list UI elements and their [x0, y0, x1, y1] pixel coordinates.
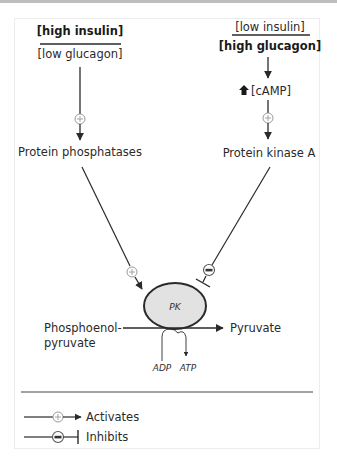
high-insulin-label: [high insulin]: [37, 24, 123, 38]
left-pathway: [high insulin] [low glucagon] Protein ph…: [18, 24, 142, 159]
inhibit-bar-icon: [196, 279, 210, 287]
atp-label: ATP: [179, 363, 197, 373]
reaction: Phosphoenol- pyruvate Pyruvate ADP ATP: [44, 321, 281, 373]
right-pathway: [low insulin] [high glucagon] [cAMP] Pro…: [219, 20, 321, 160]
protein-phosphatases-label: Protein phosphatases: [18, 145, 142, 159]
minus-icon: [204, 265, 215, 276]
legend-inhibits: Inhibits: [24, 430, 128, 444]
low-insulin-label: [low insulin]: [235, 20, 305, 34]
adp-in-curve: [162, 329, 178, 361]
protein-kinase-a-label: Protein kinase A: [223, 146, 316, 160]
pyruvate-label: Pyruvate: [230, 321, 281, 335]
activates-label: Activates: [86, 410, 139, 424]
phosphoenolpyruvate-label-line1: Phosphoenol-: [44, 321, 122, 335]
high-glucagon-label: [high glucagon]: [219, 39, 321, 53]
pyruvate-kinase-regulation-diagram: [high insulin] [low glucagon] Protein ph…: [0, 0, 337, 459]
legend-activates: Activates: [24, 410, 139, 424]
atp-out-arrow: [178, 332, 186, 356]
arrow-icon: [135, 277, 142, 289]
up-arrow-icon: [239, 85, 249, 95]
pk-enzyme: PK: [144, 283, 206, 329]
low-glucagon-label: [low glucagon]: [37, 47, 122, 61]
inhibition-line: [196, 167, 270, 287]
plus-icon: [127, 267, 137, 277]
camp-label: [cAMP]: [251, 84, 291, 98]
adp-label: ADP: [152, 363, 172, 373]
minus-icon: [53, 432, 64, 443]
plus-icon: [53, 412, 63, 422]
activation-arrow: [82, 167, 142, 289]
inhibits-label: Inhibits: [86, 430, 128, 444]
plus-icon: [263, 113, 273, 123]
pk-label: PK: [169, 302, 181, 312]
phosphoenolpyruvate-label-line2: pyruvate: [44, 336, 96, 350]
legend: Activates Inhibits: [24, 410, 139, 444]
plus-icon: [75, 114, 85, 124]
